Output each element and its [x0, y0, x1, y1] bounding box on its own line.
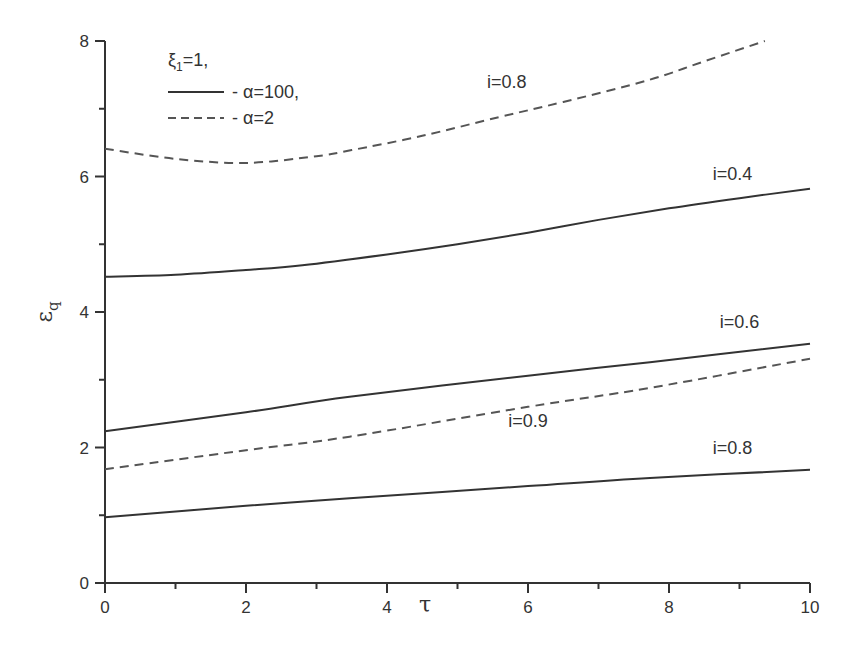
legend-label: - α=2 — [232, 108, 274, 128]
series-line — [105, 359, 810, 469]
x-tick-label: 0 — [100, 598, 109, 617]
annotations: i=0.8i=0.4i=0.6i=0.9i=0.8 — [487, 72, 759, 458]
y-tick-label: 6 — [80, 168, 89, 187]
axes: 024681002468 — [80, 32, 820, 617]
x-tick-label: 4 — [382, 598, 391, 617]
x-axis-title: τ — [419, 592, 431, 617]
curve-label: i=0.6 — [720, 312, 760, 332]
x-tick-label: 8 — [664, 598, 673, 617]
series-line — [105, 470, 810, 517]
legend-label: - α=100, — [232, 82, 299, 102]
y-tick-label: 4 — [80, 303, 89, 322]
y-axis-title: εq — [32, 301, 62, 322]
curve-label: i=0.8 — [487, 72, 527, 92]
svg-text:εq: εq — [32, 301, 62, 322]
curve-label: i=0.4 — [713, 164, 753, 184]
x-tick-label: 10 — [801, 598, 820, 617]
y-tick-label: 2 — [80, 439, 89, 458]
legend: ξ1=1,- α=100,- α=2 — [168, 50, 299, 128]
series-line — [105, 344, 810, 431]
y-tick-label: 0 — [80, 574, 89, 593]
x-tick-label: 2 — [241, 598, 250, 617]
series-line — [105, 189, 810, 277]
legend-header: ξ1=1, — [168, 50, 208, 74]
line-chart: 024681002468 i=0.8i=0.4i=0.6i=0.9i=0.8 ξ… — [0, 0, 858, 659]
curve-label: i=0.9 — [508, 411, 548, 431]
y-tick-label: 8 — [80, 32, 89, 51]
x-tick-label: 6 — [523, 598, 532, 617]
curve-label: i=0.8 — [713, 438, 753, 458]
series-group — [105, 41, 810, 517]
